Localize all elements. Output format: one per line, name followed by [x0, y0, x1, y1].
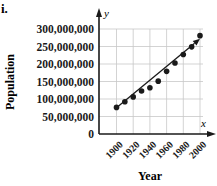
data-point — [181, 52, 187, 58]
panel-label: i. — [1, 1, 8, 16]
y-axis-variable: y — [103, 7, 109, 19]
y-tick-label: 50,000,000 — [42, 111, 94, 123]
x-tick-label: 2000 — [187, 139, 209, 161]
x-axis-arrow-icon — [207, 131, 216, 137]
y-tick-labels: 050,000,000100,000,000150,000,000200,000… — [37, 23, 95, 140]
y-axis-title: Population — [3, 54, 17, 110]
y-tick-label: 150,000,000 — [37, 76, 95, 88]
data-point — [147, 85, 153, 91]
x-tick-labels: 190019201940196019802000 — [103, 139, 208, 161]
y-axis-arrow-icon — [96, 8, 102, 17]
population-chart: i. 050,000,000100,000,000150,000,000200,… — [0, 0, 217, 186]
data-point — [114, 105, 120, 111]
data-point — [197, 33, 203, 39]
trend-line — [117, 39, 201, 108]
y-tick-label: 250,000,000 — [37, 41, 95, 53]
data-point — [164, 69, 170, 75]
data-point — [122, 99, 128, 105]
data-point — [130, 94, 136, 100]
data-point — [172, 60, 178, 66]
grid-lines — [99, 29, 203, 134]
y-tick-label: 300,000,000 — [37, 23, 95, 35]
data-point — [139, 88, 145, 94]
y-tick-label: 0 — [88, 128, 94, 140]
x-axis-title: Year — [138, 169, 163, 183]
y-tick-label: 200,000,000 — [37, 58, 95, 70]
data-point — [189, 44, 195, 50]
y-tick-label: 100,000,000 — [37, 93, 95, 105]
data-point — [155, 78, 161, 84]
x-axis-variable: x — [200, 117, 206, 129]
